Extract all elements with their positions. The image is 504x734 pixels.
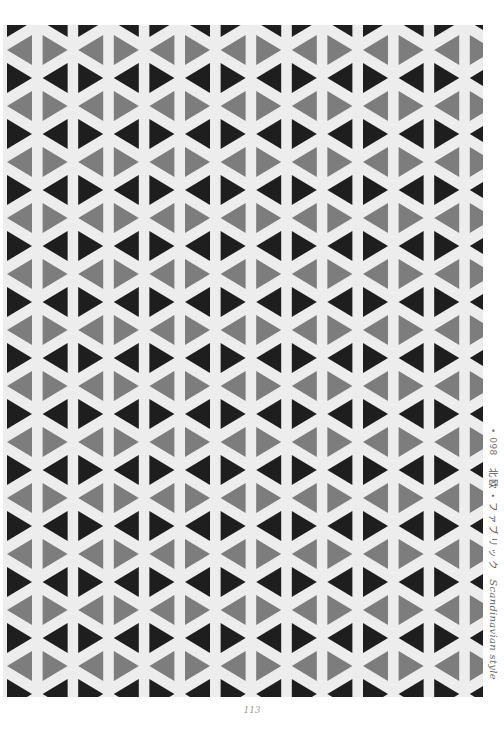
- right-triangle: [292, 679, 317, 697]
- left-triangle: [78, 483, 103, 513]
- right-triangle: [114, 259, 139, 289]
- left-triangle: [221, 147, 246, 177]
- right-triangle: [221, 287, 246, 317]
- left-triangle: [327, 231, 352, 261]
- right-triangle: [470, 259, 483, 289]
- left-triangle: [149, 91, 174, 121]
- right-triangle: [292, 399, 317, 429]
- left-triangle: [470, 63, 483, 93]
- right-triangle: [363, 231, 388, 261]
- left-triangle: [221, 483, 246, 513]
- right-triangle: [43, 595, 68, 625]
- right-triangle: [221, 455, 246, 485]
- right-triangle: [256, 35, 281, 65]
- left-triangle: [434, 427, 459, 457]
- right-triangle: [434, 679, 459, 697]
- right-triangle: [399, 315, 424, 345]
- left-triangle: [78, 147, 103, 177]
- left-triangle: [149, 259, 174, 289]
- left-triangle: [7, 315, 32, 345]
- right-triangle: [149, 511, 174, 541]
- right-triangle: [221, 119, 246, 149]
- right-triangle: [149, 287, 174, 317]
- right-triangle: [114, 427, 139, 457]
- left-triangle: [292, 371, 317, 401]
- left-triangle: [256, 343, 281, 373]
- right-triangle: [7, 623, 32, 653]
- left-triangle: [399, 679, 424, 697]
- right-triangle: [434, 287, 459, 317]
- right-triangle: [256, 539, 281, 569]
- left-triangle: [256, 399, 281, 429]
- right-triangle: [363, 567, 388, 597]
- right-triangle: [470, 483, 483, 513]
- left-triangle: [470, 623, 483, 653]
- left-triangle: [256, 287, 281, 317]
- right-triangle: [470, 35, 483, 65]
- left-triangle: [399, 567, 424, 597]
- left-triangle: [43, 679, 68, 697]
- left-triangle: [149, 539, 174, 569]
- left-triangle: [434, 203, 459, 233]
- right-triangle: [470, 147, 483, 177]
- right-triangle: [7, 343, 32, 373]
- left-triangle: [434, 147, 459, 177]
- left-triangle: [363, 147, 388, 177]
- right-triangle: [149, 623, 174, 653]
- right-triangle: [185, 651, 210, 681]
- caption-title-jp: 北欧・ファブリック: [484, 468, 502, 572]
- right-triangle: [78, 567, 103, 597]
- right-triangle: [363, 175, 388, 205]
- right-triangle: [185, 35, 210, 65]
- left-triangle: [399, 455, 424, 485]
- left-triangle: [470, 25, 483, 37]
- right-triangle: [221, 567, 246, 597]
- right-triangle: [327, 91, 352, 121]
- left-triangle: [470, 119, 483, 149]
- right-triangle: [399, 427, 424, 457]
- right-triangle: [256, 595, 281, 625]
- left-triangle: [434, 483, 459, 513]
- left-triangle: [43, 399, 68, 429]
- left-triangle: [470, 343, 483, 373]
- left-triangle: [114, 287, 139, 317]
- right-triangle: [78, 175, 103, 205]
- right-triangle: [7, 287, 32, 317]
- left-triangle: [7, 147, 32, 177]
- right-triangle: [149, 567, 174, 597]
- left-triangle: [114, 343, 139, 373]
- right-triangle: [185, 315, 210, 345]
- right-triangle: [327, 595, 352, 625]
- left-triangle: [327, 399, 352, 429]
- right-triangle: [470, 315, 483, 345]
- right-triangle: [7, 175, 32, 205]
- right-triangle: [43, 147, 68, 177]
- left-triangle: [114, 25, 139, 37]
- left-triangle: [399, 119, 424, 149]
- left-triangle: [185, 623, 210, 653]
- right-triangle: [43, 483, 68, 513]
- right-triangle: [149, 175, 174, 205]
- right-triangle: [7, 25, 32, 37]
- left-triangle: [399, 231, 424, 261]
- right-triangle: [399, 539, 424, 569]
- left-triangle: [43, 25, 68, 37]
- left-triangle: [470, 231, 483, 261]
- left-triangle: [470, 175, 483, 205]
- right-triangle: [256, 203, 281, 233]
- right-triangle: [292, 623, 317, 653]
- left-triangle: [256, 175, 281, 205]
- left-triangle: [327, 119, 352, 149]
- left-triangle: [78, 203, 103, 233]
- right-triangle: [78, 63, 103, 93]
- left-triangle: [256, 679, 281, 697]
- right-triangle: [185, 91, 210, 121]
- right-triangle: [256, 483, 281, 513]
- left-triangle: [185, 175, 210, 205]
- left-triangle: [78, 651, 103, 681]
- right-triangle: [7, 63, 32, 93]
- pattern-svg: [3, 25, 483, 697]
- right-triangle: [221, 25, 246, 37]
- left-triangle: [363, 35, 388, 65]
- right-triangle: [327, 315, 352, 345]
